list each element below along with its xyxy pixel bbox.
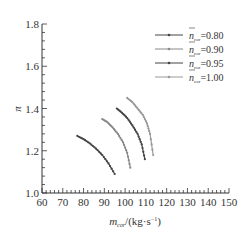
data-point	[138, 135, 140, 137]
data-point	[129, 167, 131, 169]
data-point	[96, 149, 98, 151]
data-point	[133, 126, 135, 128]
legend-marker	[168, 48, 171, 51]
series-1	[101, 118, 131, 169]
series-3	[126, 97, 154, 156]
data-point	[119, 137, 121, 139]
data-point	[143, 116, 145, 118]
y-tick-label: 1.0	[25, 187, 39, 199]
legend-label: ncor=0.95	[189, 58, 224, 70]
x-axis-label: mcor/(kg·s−1)	[109, 215, 161, 228]
data-point	[95, 148, 97, 150]
data-point	[100, 152, 102, 154]
data-point	[128, 163, 130, 165]
data-point	[114, 173, 116, 175]
x-label-unit: /(kg·s	[125, 215, 151, 228]
data-point	[112, 170, 114, 172]
axis-labels: π mcor/(kg·s−1)	[11, 106, 161, 228]
data-point	[149, 133, 151, 135]
data-point	[131, 124, 133, 126]
legend-marker	[168, 76, 171, 79]
data-point	[103, 156, 105, 158]
data-point	[150, 138, 152, 140]
data-point	[152, 154, 154, 156]
data-point	[144, 158, 146, 160]
series-line	[127, 98, 153, 155]
legend-label: ncor=1.00	[189, 72, 224, 84]
legend-item: ncor=1.00	[155, 70, 224, 84]
data-point	[141, 143, 143, 145]
line-chart: 607080901001101201301401501.01.21.41.61.…	[0, 0, 246, 242]
data-point	[124, 146, 126, 148]
data-point	[104, 158, 106, 160]
data-point	[140, 141, 142, 143]
legend-item: ncor=0.95	[155, 56, 224, 70]
series-0	[76, 135, 116, 175]
x-label-close: )	[157, 215, 161, 228]
data-point	[143, 154, 145, 156]
data-point	[121, 139, 123, 141]
data-point	[101, 154, 103, 156]
data-point	[147, 125, 149, 127]
legend: ncor=0.80ncor=0.90ncor=0.95ncor=1.00	[155, 28, 224, 84]
data-point	[135, 131, 137, 133]
x-tick-label: 80	[78, 196, 90, 208]
data-point	[127, 119, 129, 121]
y-tick-label: 1.2	[25, 145, 39, 157]
legend-marker	[168, 62, 171, 65]
data-point	[126, 117, 128, 119]
data-point	[142, 114, 144, 116]
legend-marker	[168, 34, 171, 37]
legend-label: ncor=0.90	[189, 44, 224, 56]
data-point	[151, 149, 153, 151]
data-point	[147, 127, 149, 129]
data-point	[117, 133, 119, 135]
data-point	[127, 155, 129, 157]
data-point	[98, 151, 100, 153]
data-point	[122, 141, 124, 143]
data-point	[134, 129, 136, 131]
data-point	[130, 122, 132, 124]
x-label-symbol: m	[109, 215, 117, 227]
series-line	[117, 109, 145, 160]
data-point	[129, 121, 131, 123]
y-tick-label: 1.6	[25, 60, 39, 72]
data-point	[141, 147, 143, 149]
data-point	[107, 162, 109, 164]
data-point	[106, 160, 108, 162]
x-tick-label: 100	[117, 196, 134, 208]
data-point	[151, 143, 153, 145]
x-tick-label: 110	[138, 196, 155, 208]
x-tick-label: 120	[158, 196, 175, 208]
series-2	[116, 107, 146, 160]
data-point	[128, 159, 130, 161]
y-tick-label: 1.8	[25, 18, 39, 30]
data-point	[111, 168, 113, 170]
data-point	[148, 130, 150, 132]
data-point	[118, 135, 120, 137]
data-point	[142, 151, 144, 153]
data-point	[123, 144, 125, 146]
series-group	[76, 97, 154, 175]
x-tick-label: 130	[179, 196, 196, 208]
data-point	[144, 118, 146, 120]
data-point	[145, 120, 147, 122]
x-tick-label: 70	[57, 196, 69, 208]
y-tick-label: 1.4	[25, 103, 39, 115]
data-point	[109, 165, 111, 167]
data-point	[125, 149, 127, 151]
data-point	[136, 133, 138, 135]
data-point	[126, 152, 128, 154]
legend-item: ncor=0.80	[155, 28, 224, 42]
legend-item: ncor=0.90	[155, 42, 224, 56]
y-axis-label: π	[11, 106, 23, 112]
data-point	[139, 138, 141, 140]
x-tick-label: 140	[200, 196, 217, 208]
legend-label: ncor=0.80	[189, 30, 224, 42]
data-point	[146, 122, 148, 124]
x-tick-label: 90	[99, 196, 111, 208]
series-line	[77, 136, 114, 174]
x-tick-label: 150	[221, 196, 238, 208]
